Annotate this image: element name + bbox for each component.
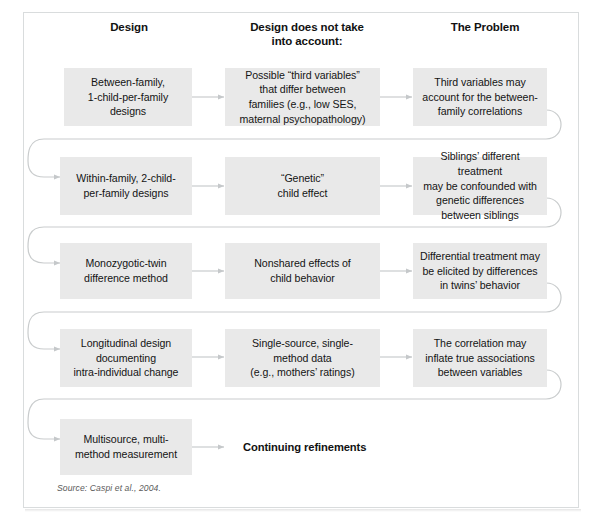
figure-frame-shadow bbox=[25, 509, 581, 512]
column-header-problem: The Problem bbox=[415, 20, 555, 34]
node-not-accounted-row-2: “Genetic” child effect bbox=[225, 157, 380, 215]
node-not-accounted-row-4: Single-source, single- method data (e.g.… bbox=[225, 329, 380, 387]
source-note: Source: Caspi et al., 2004. bbox=[57, 483, 161, 493]
node-problem-row-2: Siblings’ different treatment may be con… bbox=[413, 157, 547, 215]
node-not-accounted-row-1: Possible “third variables” that differ b… bbox=[225, 68, 380, 126]
node-design-row-3: Monozygotic-twin difference method bbox=[60, 243, 192, 299]
cropped-header-sliver bbox=[0, 0, 602, 7]
node-design-row-1: Between-family, 1-child-per-family desig… bbox=[64, 68, 192, 126]
label-continuing-refinements: Continuing refinements bbox=[243, 438, 463, 456]
figure-root: Design Design does not take into account… bbox=[0, 0, 602, 531]
node-design-row-2: Within-family, 2-child- per-family desig… bbox=[60, 157, 192, 215]
column-header-not-accounted: Design does not take into account: bbox=[227, 20, 387, 49]
column-header-design: Design bbox=[64, 20, 194, 34]
node-problem-row-1: Third variables may account for the betw… bbox=[413, 68, 547, 126]
node-design-row-4: Longitudinal design documenting intra-in… bbox=[60, 329, 192, 387]
node-design-row-5: Multisource, multi- method measurement bbox=[60, 419, 192, 475]
node-not-accounted-row-3: Nonshared effects of child behavior bbox=[225, 243, 380, 299]
node-problem-row-4: The correlation may inflate true associa… bbox=[413, 329, 547, 387]
node-problem-row-3: Differential treatment may be elicited b… bbox=[413, 243, 547, 299]
